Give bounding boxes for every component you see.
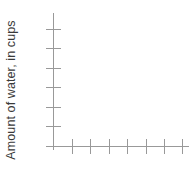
- x-axis-tick: [164, 139, 165, 154]
- y-axis-tick: [46, 126, 61, 127]
- x-axis-tick: [109, 139, 110, 154]
- x-axis-tick: [90, 139, 91, 154]
- y-axis-tick: [46, 29, 61, 30]
- y-axis-tick: [46, 48, 61, 49]
- y-axis-tick: [46, 107, 61, 108]
- x-axis-line: [46, 146, 189, 147]
- y-axis-tick: [46, 87, 61, 88]
- x-axis-tick: [146, 139, 147, 154]
- x-axis-tick: [182, 139, 183, 154]
- chart-screenshot: Amount of water, in cups: [0, 0, 193, 180]
- x-axis-tick: [72, 139, 73, 154]
- y-axis-title: Amount of water, in cups: [0, 0, 22, 180]
- x-axis-tick: [127, 139, 128, 154]
- y-axis-line: [53, 13, 54, 150]
- y-axis-tick: [46, 68, 61, 69]
- plot-area: [0, 0, 193, 180]
